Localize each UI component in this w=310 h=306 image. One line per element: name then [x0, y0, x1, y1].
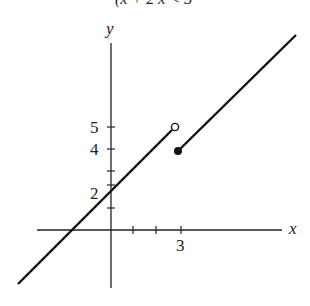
y-axis-label: y [104, 19, 114, 38]
closed-endpoint [174, 147, 182, 155]
x-tick-label-3: 3 [176, 236, 185, 255]
y-tick-label-2: 2 [90, 184, 99, 203]
y-tick-label-5: 5 [90, 118, 99, 137]
line-segment-right [178, 35, 296, 151]
y-tick-label-4: 4 [90, 140, 99, 159]
x-axis-label: x [288, 219, 297, 238]
formula-fragment: (x + 2 x < 3 [115, 0, 192, 8]
piecewise-graph: (x + 2 x < 3 5 4 2 3 y x [0, 0, 310, 306]
open-endpoint [171, 123, 178, 130]
